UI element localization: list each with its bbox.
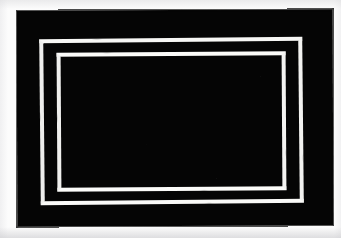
artwork-canvas	[0, 0, 341, 238]
inner-white-frame	[57, 51, 287, 191]
